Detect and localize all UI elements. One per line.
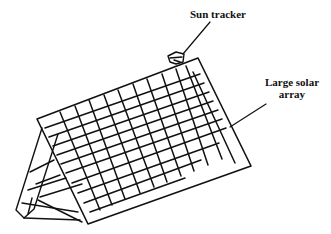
solar-array-leader [230, 104, 266, 127]
diagram-drawing [0, 0, 331, 234]
solar-array-diagram: Sun tracker Large solar array [0, 0, 331, 234]
panel-column-lines [60, 66, 235, 210]
sun-tracker-icon [168, 52, 184, 64]
sun-tracker-leader [183, 22, 210, 54]
sun-tracker-label: Sun tracker [190, 8, 246, 20]
solar-array-label: Large solar array [262, 76, 322, 100]
